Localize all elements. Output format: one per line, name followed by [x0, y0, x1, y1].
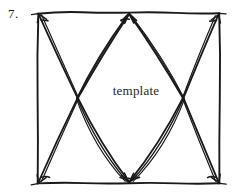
edge-bottommiddle-to-leftcross — [77, 98, 129, 181]
center-text-label: template — [96, 83, 176, 99]
edge-bottomleft-to-leftcross — [39, 98, 79, 181]
border-right-edge — [219, 13, 220, 183]
border-left-edge — [37, 14, 38, 184]
edge-bottomright-to-rightcross — [182, 98, 218, 181]
edge-topright-to-rightcross — [182, 16, 217, 98]
figure-item-number: 7. — [8, 6, 19, 22]
edge-topleft-to-leftcross — [39, 15, 78, 98]
arrowhead-bottom-right — [208, 174, 221, 182]
edge-bottommiddle-to-rightcross — [130, 98, 184, 181]
border-corner-overshoot-tr — [219, 13, 226, 14]
template-figure: 7. template — [0, 0, 245, 196]
border-corner-overshoot-br — [219, 183, 226, 184]
border-corner-overshoot-bl — [31, 184, 38, 185]
